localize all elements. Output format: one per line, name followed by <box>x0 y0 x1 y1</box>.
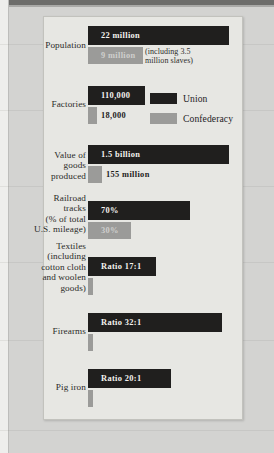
category-label: Pig iron <box>10 382 86 392</box>
bar-group: Ratio 32:1 <box>88 313 222 351</box>
chart-row-firearms: Firearms Ratio 32:1 <box>0 313 274 357</box>
bar-group: Ratio 20:1 <box>88 369 171 407</box>
category-label: Railroad tracks (% of total U.S. mileage… <box>10 193 86 235</box>
bar-group: 70% 30% <box>88 201 190 239</box>
bar-confederacy-firearms <box>88 334 93 351</box>
bar-union-population: 22 million <box>88 26 229 45</box>
bar-group: 22 million 9 million (including 3.5 mill… <box>88 26 229 64</box>
bar-confederacy-factories <box>88 107 97 124</box>
category-label: Value of goods produced <box>10 150 86 181</box>
bar-union-railroad-tracks: 70% <box>88 201 190 220</box>
page-top-band-shadow <box>9 5 274 7</box>
bar-union-pig-iron: Ratio 20:1 <box>88 369 171 388</box>
bar-confederacy-textiles <box>88 278 93 295</box>
bar-confederacy-railroad-tracks: 30% <box>88 222 131 239</box>
chart-row-railroad-tracks: Railroad tracks (% of total U.S. mileage… <box>0 201 274 245</box>
legend-swatch-confederacy-icon <box>150 113 177 124</box>
bar-union-textiles: Ratio 17:1 <box>88 257 156 276</box>
category-label: Factories <box>10 99 86 109</box>
bar-annotation-slaves: (including 3.5 million slaves) <box>145 47 193 65</box>
chart-row-population: Population 22 million 9 million (includi… <box>0 26 274 70</box>
page-texture-rule <box>0 430 274 431</box>
bar-value-label: Ratio 32:1 <box>101 318 141 326</box>
legend-item-union: Union <box>150 90 242 106</box>
bar-confederacy-value-of-goods <box>88 166 102 183</box>
bar-value-label: Ratio 20:1 <box>101 374 141 382</box>
bar-confederacy-population: 9 million <box>88 47 143 64</box>
legend-item-confederacy: Confederacy <box>150 110 242 126</box>
category-label: Firearms <box>10 326 86 336</box>
bar-union-factories: 110,000 <box>88 86 145 105</box>
bar-value-label: 18,000 <box>101 112 126 120</box>
legend-label: Confederacy <box>183 113 233 124</box>
bar-value-label: 9 million <box>101 51 136 59</box>
category-label: Textiles (including cotton cloth and woo… <box>10 241 86 293</box>
bar-value-label: 70% <box>101 206 119 214</box>
chart-row-textiles: Textiles (including cotton cloth and woo… <box>0 257 274 301</box>
bar-value-label: 22 million <box>101 31 140 39</box>
chart-row-pig-iron: Pig iron Ratio 20:1 <box>0 369 274 413</box>
scanned-page: Population 22 million 9 million (includi… <box>0 0 274 453</box>
bar-confederacy-pig-iron <box>88 390 93 407</box>
bar-union-value-of-goods: 1.5 billion <box>88 145 229 164</box>
bar-group: 1.5 billion 155 million <box>88 145 229 183</box>
bar-value-label: 30% <box>101 226 119 234</box>
chart-row-value-of-goods: Value of goods produced 1.5 billion 155 … <box>0 145 274 189</box>
bar-value-label: 1.5 billion <box>101 150 140 158</box>
bar-value-label: 155 million <box>106 171 150 179</box>
bar-value-label: Ratio 17:1 <box>101 262 141 270</box>
legend-label: Union <box>183 93 207 104</box>
bar-group: Ratio 17:1 <box>88 257 156 295</box>
bar-value-label: 110,000 <box>101 91 130 99</box>
category-label: Population <box>10 40 86 50</box>
legend: Union Confederacy <box>150 90 242 130</box>
legend-swatch-union-icon <box>150 93 177 104</box>
bar-group: 110,000 18,000 <box>88 86 145 124</box>
bar-union-firearms: Ratio 32:1 <box>88 313 222 332</box>
